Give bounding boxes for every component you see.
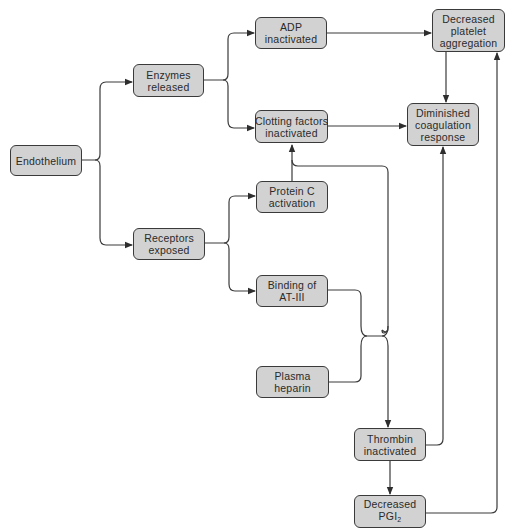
node-clotting-factors-inactivated: Clotting factors inactivated: [255, 110, 328, 143]
node-label: Binding of: [268, 279, 317, 291]
edge-endothelium-enzymes: [82, 82, 132, 160]
edge-enzymes-adp: [204, 33, 254, 80]
node-receptors-exposed: Receptors exposed: [133, 228, 205, 260]
node-adp-inactivated: ADP inactivated: [255, 17, 327, 49]
edge-receptors-at3: [224, 243, 255, 291]
node-label: Protein C: [269, 185, 315, 197]
node-decreased-platelet-aggregation: Decreased platelet aggregation: [432, 9, 505, 52]
node-label: Enzymes: [146, 69, 191, 81]
node-label: exposed: [148, 244, 189, 256]
node-label: Decreased: [364, 498, 417, 510]
node-label: Receptors: [144, 232, 194, 244]
connector-lines: [0, 0, 511, 532]
edge-receptors-proteinc: [205, 196, 255, 243]
node-label: AT-III: [279, 291, 305, 303]
node-decreased-pgi2: Decreased PGI2: [354, 495, 426, 528]
edge-at3-junction: [328, 290, 388, 336]
node-protein-c-activation: Protein C activation: [256, 181, 328, 213]
node-label: aggregation: [440, 37, 498, 49]
node-label: Endothelium: [16, 155, 77, 167]
node-plasma-heparin: Plasma heparin: [256, 366, 329, 398]
node-label: Diminished: [416, 107, 470, 119]
pgi-text: PGI: [379, 510, 398, 522]
node-binding-at3: Binding of AT-III: [256, 275, 328, 307]
node-label: inactivated: [364, 445, 416, 457]
edge-junction-thrombin: [382, 336, 388, 427]
node-label: Plasma: [274, 370, 310, 382]
node-label: heparin: [274, 382, 310, 394]
node-label: Thrombin: [367, 433, 413, 445]
node-label: inactivated: [265, 127, 317, 139]
edge-heparin-junction: [329, 336, 367, 382]
node-label: response: [421, 131, 466, 143]
node-label: released: [148, 81, 190, 93]
node-label: platelet: [451, 25, 486, 37]
node-endothelium: Endothelium: [10, 145, 82, 176]
node-enzymes-released: Enzymes released: [133, 64, 204, 97]
node-label: PGI2: [379, 510, 402, 526]
node-label: coagulation: [415, 119, 471, 131]
node-label: activation: [269, 197, 315, 209]
node-diminished-coagulation-response: Diminished coagulation response: [407, 103, 479, 146]
node-label: Clotting factors: [255, 115, 328, 127]
edge-enzymes-clotting: [223, 80, 254, 128]
node-thrombin-inactivated: Thrombin inactivated: [354, 428, 426, 461]
node-label: ADP: [280, 21, 302, 33]
pgi-subscript: 2: [397, 516, 401, 523]
node-label: inactivated: [265, 33, 317, 45]
node-label: Decreased: [442, 13, 495, 25]
edge-endothelium-receptors: [95, 160, 132, 245]
edge-thrombin-diminished: [426, 147, 443, 445]
